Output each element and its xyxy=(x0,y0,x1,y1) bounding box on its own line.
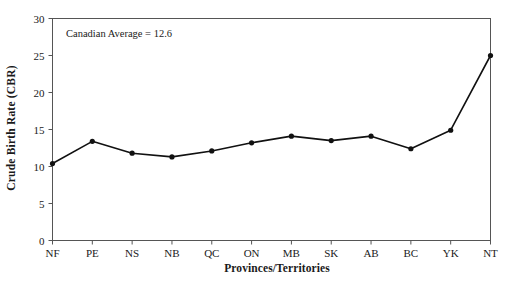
data-point-nb xyxy=(169,154,174,159)
x-tick-label-mb: MB xyxy=(283,247,300,259)
x-tick-label-ns: NS xyxy=(125,247,139,259)
data-point-pe xyxy=(90,139,95,144)
x-tick-label-nf: NF xyxy=(45,247,59,259)
data-point-yk xyxy=(448,128,453,133)
data-point-mb xyxy=(289,134,294,139)
x-tick-label-ab: AB xyxy=(363,247,378,259)
y-tick-label: 25 xyxy=(34,50,46,62)
x-tick-label-yk: YK xyxy=(443,247,459,259)
y-tick-label: 10 xyxy=(34,161,46,173)
x-tick-label-pe: PE xyxy=(86,247,99,259)
plot-frame xyxy=(53,19,491,241)
y-tick-label: 30 xyxy=(34,13,46,25)
data-point-qc xyxy=(209,148,214,153)
x-tick-label-on: ON xyxy=(244,247,260,259)
x-tick-label-bc: BC xyxy=(404,247,419,259)
annotation-canadian-average: Canadian Average = 12.6 xyxy=(66,28,172,39)
data-point-ns xyxy=(130,151,135,156)
data-point-nf xyxy=(50,161,55,166)
y-tick-label: 15 xyxy=(34,124,46,136)
data-point-nt xyxy=(488,53,493,58)
data-point-on xyxy=(249,140,254,145)
data-point-bc xyxy=(408,146,413,151)
data-point-ab xyxy=(368,134,373,139)
x-axis-ticks: NFPENSNBQCONMBSKABBCYKNT xyxy=(45,241,498,259)
y-tick-label: 20 xyxy=(34,87,46,99)
x-tick-label-nt: NT xyxy=(483,247,498,259)
chart-figure: Crude Birth Rate (CBR) Provinces/Territo… xyxy=(0,0,512,284)
data-point-sk xyxy=(329,138,334,143)
y-tick-label: 0 xyxy=(39,235,45,247)
x-tick-label-sk: SK xyxy=(324,247,338,259)
y-axis-ticks: 051015202530 xyxy=(34,13,53,247)
line-chart-plot: 051015202530 NFPENSNBQCONMBSKABBCYKNT Ca… xyxy=(0,0,512,284)
x-tick-label-qc: QC xyxy=(204,247,219,259)
y-tick-label: 5 xyxy=(39,198,45,210)
x-tick-label-nb: NB xyxy=(164,247,179,259)
